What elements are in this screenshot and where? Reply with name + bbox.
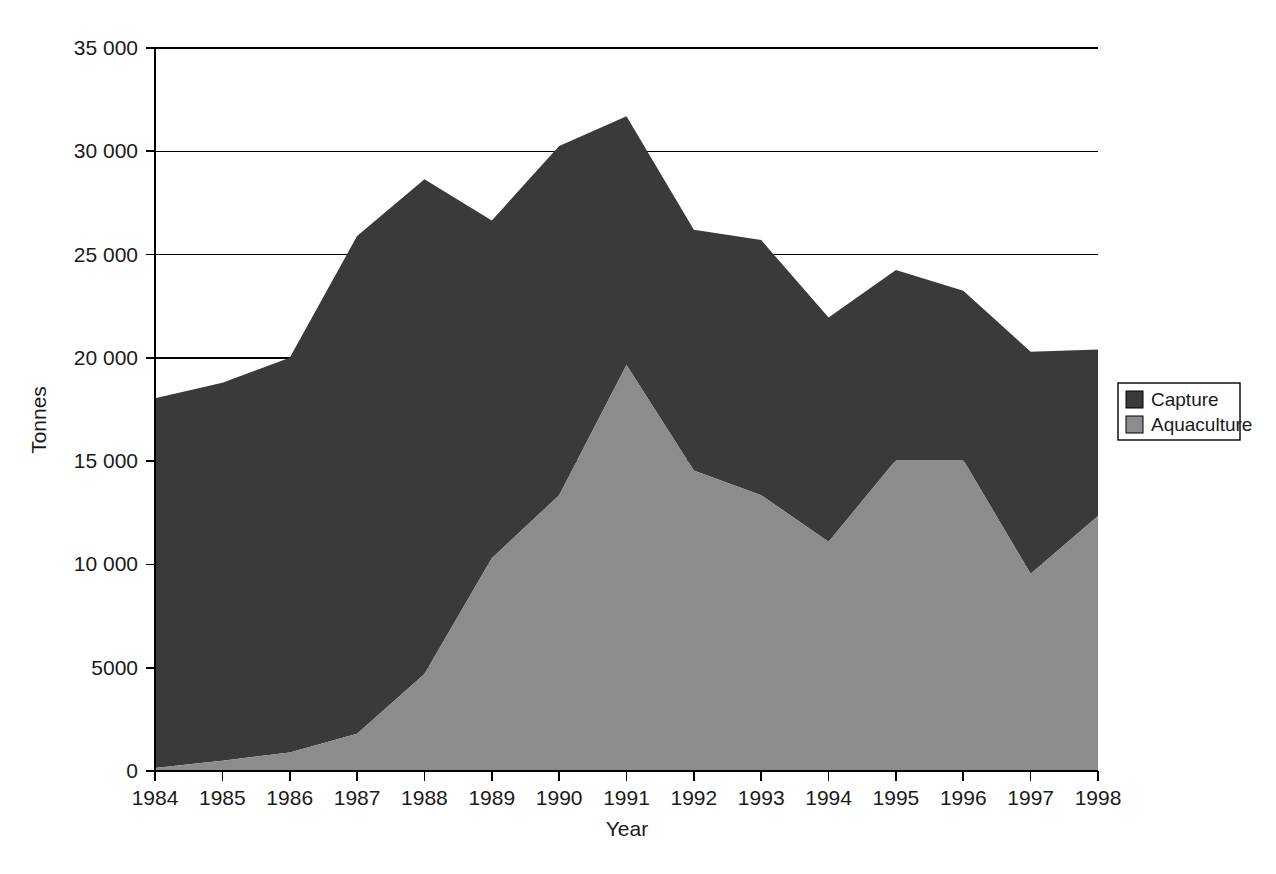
legend-label-capture: Capture <box>1151 389 1219 410</box>
x-tick-label: 1994 <box>805 786 852 809</box>
x-tick-label: 1985 <box>199 786 246 809</box>
y-axis-tick-labels: 0500010 00015 00020 00025 00030 00035 00… <box>74 36 138 782</box>
y-tick-label: 30 000 <box>74 139 138 162</box>
x-tick-label: 1996 <box>940 786 987 809</box>
y-tick-label: 5000 <box>91 656 138 679</box>
y-tick-label: 20 000 <box>74 346 138 369</box>
y-tick-label: 0 <box>126 759 138 782</box>
x-axis-ticks <box>155 771 1098 781</box>
x-tick-label: 1998 <box>1075 786 1122 809</box>
x-tick-label: 1984 <box>132 786 179 809</box>
x-tick-label: 1990 <box>536 786 583 809</box>
x-tick-label: 1995 <box>873 786 920 809</box>
x-axis-title: Year <box>606 817 648 840</box>
chart-legend: Capture Aquaculture <box>1118 383 1252 440</box>
y-tick-label: 35 000 <box>74 36 138 59</box>
x-tick-label: 1986 <box>266 786 313 809</box>
x-tick-label: 1988 <box>401 786 448 809</box>
x-tick-label: 1993 <box>738 786 785 809</box>
legend-swatch-aquaculture <box>1126 416 1143 433</box>
y-tick-label: 25 000 <box>74 243 138 266</box>
x-tick-label: 1997 <box>1007 786 1054 809</box>
x-axis-tick-labels: 1984198519861987198819891990199119921993… <box>132 786 1122 809</box>
y-tick-label: 15 000 <box>74 449 138 472</box>
y-tick-label: 10 000 <box>74 552 138 575</box>
y-axis-ticks <box>146 48 155 771</box>
x-tick-label: 1991 <box>603 786 650 809</box>
x-tick-label: 1987 <box>334 786 381 809</box>
stacked-area-chart: 0500010 00015 00020 00025 00030 00035 00… <box>0 0 1276 874</box>
x-tick-label: 1992 <box>670 786 717 809</box>
legend-label-aquaculture: Aquaculture <box>1151 414 1252 435</box>
chart-canvas: 0500010 00015 00020 00025 00030 00035 00… <box>0 0 1276 874</box>
x-tick-label: 1989 <box>468 786 515 809</box>
y-axis-title: Tonnes <box>27 386 50 454</box>
legend-swatch-capture <box>1126 391 1143 408</box>
